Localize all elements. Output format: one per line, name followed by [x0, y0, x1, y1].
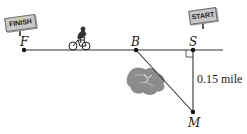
label-m: M	[188, 117, 200, 129]
label-b: B	[131, 36, 140, 48]
distance-label: 0.15 mile	[197, 73, 242, 85]
mud-patch-icon	[127, 68, 164, 95]
label-s: S	[189, 36, 197, 48]
race-diagram: FINISH START F B S M 0.15 mile	[0, 0, 247, 134]
bicycle-icon	[69, 27, 90, 50]
point-m	[191, 110, 195, 114]
label-f: F	[20, 36, 28, 48]
